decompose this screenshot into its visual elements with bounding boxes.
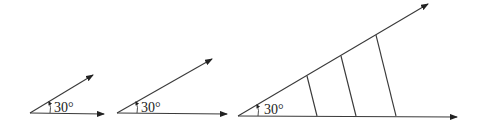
angle-diagram: 30° 30° 30° [0, 0, 479, 140]
base-arm [117, 113, 227, 114]
angle-figure-3: 30° [238, 4, 457, 117]
angle-arc-arrow-icon [49, 102, 51, 113]
angle-figure-1: 30° [30, 75, 104, 115]
angle-arc-arrow-icon [136, 102, 138, 113]
parallel-transversals [307, 35, 396, 116]
angle-label: 30° [141, 100, 161, 115]
angle-arc-arrow-icon [257, 105, 259, 116]
angle-label: 30° [54, 100, 74, 115]
ray-arm [117, 59, 212, 113]
angle-figure-2: 30° [117, 59, 227, 115]
transversal-line [376, 35, 396, 116]
angle-label: 30° [264, 102, 284, 117]
transversal-line [341, 56, 356, 116]
transversal-line [307, 76, 317, 116]
ray-arm [238, 4, 428, 116]
